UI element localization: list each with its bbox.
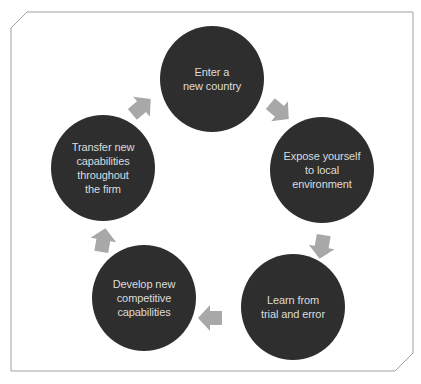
cycle-diagram: Enter a new country Expose yourself to l… [0,0,421,384]
node-label: Expose yourself to local environment [278,149,367,191]
node-transfer-capabilities: Transfer new capabilities throughout the… [51,115,155,221]
node-learn-trial-error: Learn from trial and error [241,254,345,360]
node-label: Enter a new country [177,65,247,93]
node-enter-new-country: Enter a new country [160,26,264,132]
node-develop-capabilities: Develop new competitive capabilities [92,245,196,351]
node-label: Transfer new capabilities throughout the… [66,140,141,196]
node-label: Develop new competitive capabilities [107,277,182,319]
node-expose-local-environment: Expose yourself to local environment [270,117,374,223]
node-label: Learn from trial and error [255,293,331,321]
